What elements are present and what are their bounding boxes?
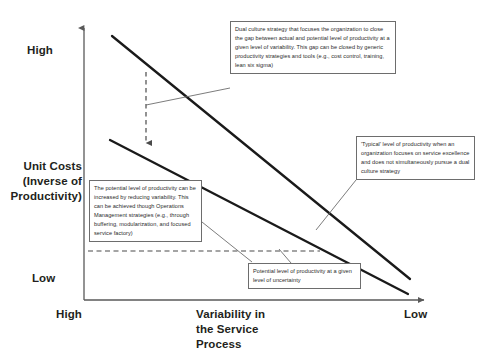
x-axis-high-label: High (56, 308, 82, 320)
y-axis-low-label: Low (32, 272, 55, 284)
diagram-canvas: High Unit Costs (Inverse of Productivity… (0, 0, 488, 353)
callout-dual-culture-strategy: Dual culture strategy that focuses the o… (230, 21, 396, 74)
callout-typical-productivity-level: 'Typical' level of productivity when an … (356, 136, 475, 180)
y-axis-title-line-3: Productivity) (6, 189, 82, 204)
x-axis-title-line-1: Variability in (196, 307, 278, 322)
x-axis-low-label: Low (404, 308, 427, 320)
x-axis-title-line-3: Process (196, 337, 278, 352)
callout-potential-reduce-variability: The potential level of productivity can … (89, 180, 202, 242)
y-axis-title-line-1: Unit Costs (6, 159, 82, 174)
y-axis-title: Unit Costs (Inverse of Productivity) (6, 159, 82, 205)
callout-potential-at-uncertainty: Potential level of productivity at a giv… (248, 263, 361, 289)
y-axis-title-line-2: (Inverse of (6, 174, 82, 189)
x-axis-title-line-2: the Service (196, 322, 278, 337)
y-axis-high-label: High (27, 44, 53, 56)
leader-line-typical (316, 180, 356, 230)
leader-line-dual-culture (146, 88, 230, 105)
x-axis-title: Variability in the Service Process (196, 307, 278, 353)
leader-line-potential-left (202, 222, 252, 262)
